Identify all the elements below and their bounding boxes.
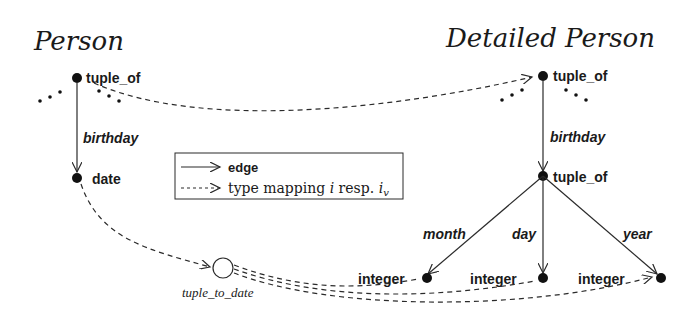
mapping-root-to-root: [94, 77, 532, 111]
label-left-date: date: [92, 171, 121, 187]
title-person: Person: [33, 26, 124, 56]
node-left-date: [72, 173, 82, 183]
right-schema: tuple_of birthday tuple_of month day yea…: [358, 68, 666, 287]
label-left-birthday: birthday: [83, 130, 139, 146]
title-detailed-person: Detailed Person: [445, 23, 655, 53]
ellipsis-right-root-left: [500, 88, 524, 102]
ellipsis-left-root-left: [38, 90, 62, 103]
label-month: month: [423, 226, 466, 242]
label-integer-month: integer: [358, 271, 405, 287]
ellipsis-left-root-right: [97, 89, 121, 103]
label-day: day: [512, 226, 537, 242]
node-integer-day: [538, 273, 548, 283]
node-integer-month: [422, 273, 432, 283]
node-left-root: [72, 73, 82, 83]
legend-mapping-label: type mapping i resp. iv: [228, 180, 389, 198]
legend-edge-label: edge: [228, 160, 258, 175]
edge-month: [428, 176, 543, 274]
label-right-tuple: tuple_of: [553, 169, 608, 185]
ellipsis-right-root-right: [564, 88, 588, 102]
label-tuple-to-date: tuple_to_date: [182, 285, 254, 300]
node-integer-year: [656, 273, 666, 283]
type-mapping-diagram: Person Detailed Person tuple_of birthday…: [0, 0, 699, 323]
node-right-root: [538, 71, 548, 81]
left-schema: tuple_of birthday date: [38, 70, 141, 187]
edge-year: [543, 176, 657, 274]
function-node-tuple-to-date: [213, 258, 233, 278]
label-right-birthday: birthday: [550, 129, 606, 145]
label-right-root: tuple_of: [553, 68, 608, 84]
label-year: year: [622, 226, 653, 242]
legend: edge type mapping i resp. iv: [175, 153, 403, 199]
